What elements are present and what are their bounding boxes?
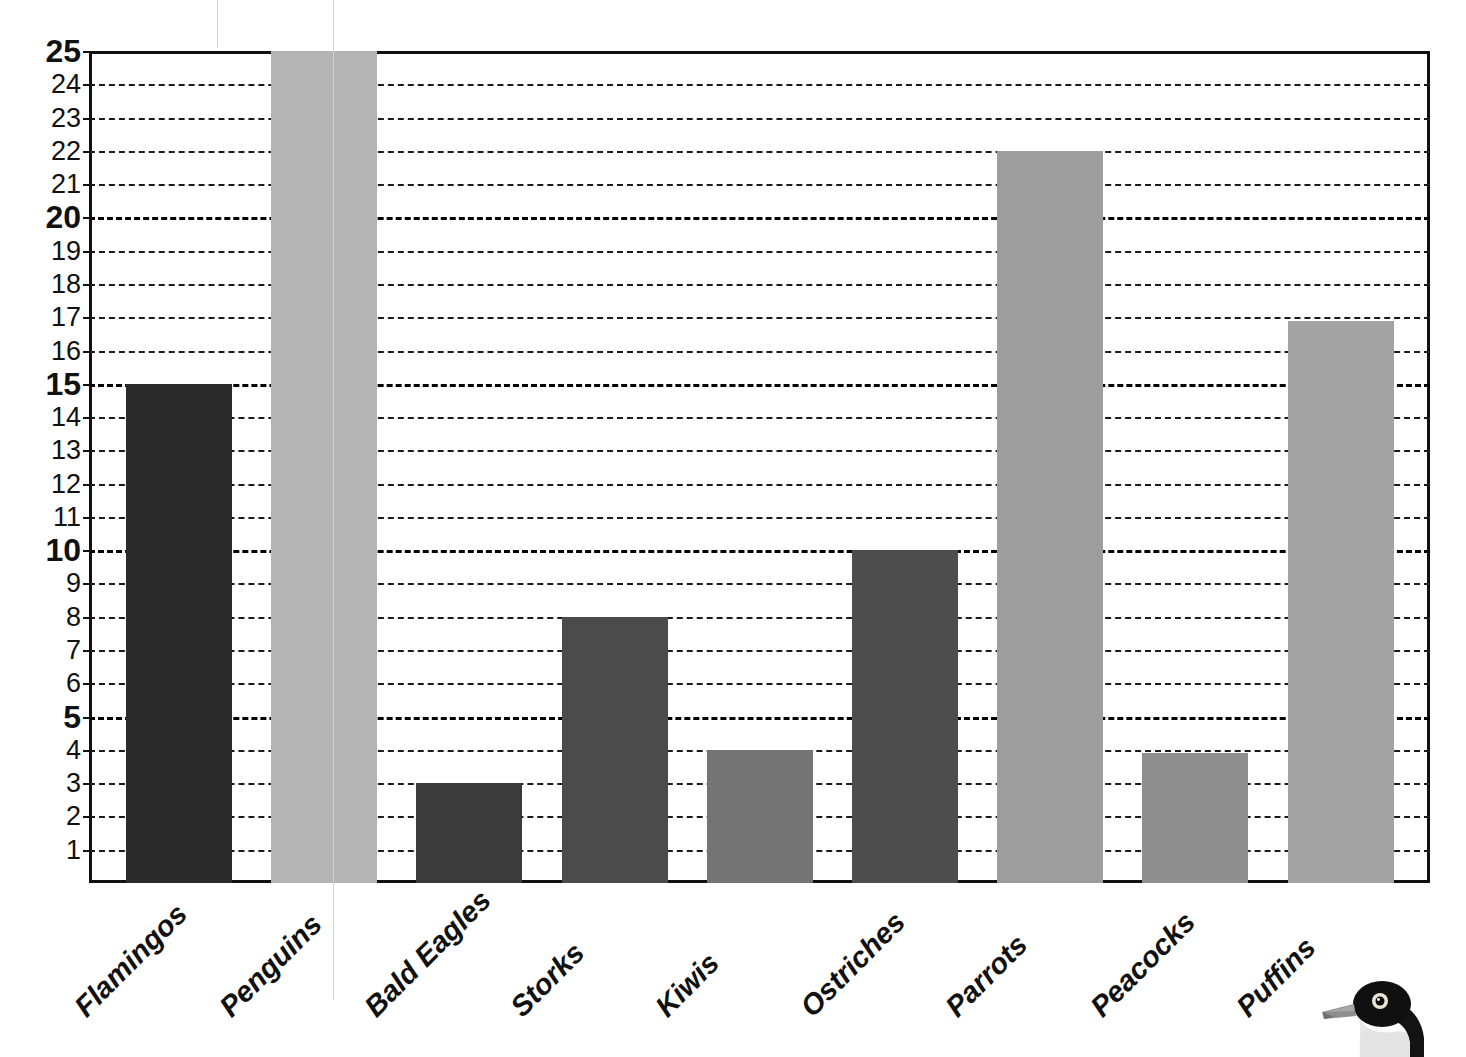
y-axis-tick-label: 24 (51, 71, 81, 98)
y-tick-mark-16 (83, 351, 91, 353)
y-axis-tick-label: 22 (51, 137, 81, 164)
x-axis-label-ostriches: Ostriches (794, 905, 912, 1023)
x-axis-label-puffins: Puffins (1230, 931, 1322, 1023)
x-axis-label-peacocks: Peacocks (1084, 905, 1202, 1023)
y-axis-tick-label: 12 (51, 470, 81, 497)
scan-artifact-line (217, 0, 218, 48)
y-axis-tick-label: 7 (66, 637, 81, 664)
y-axis-tick-label: 16 (51, 337, 81, 364)
x-axis-label-bald-eagles: Bald Eagles (358, 884, 498, 1024)
y-axis-tick-label: 6 (66, 670, 81, 697)
y-axis-tick-label: 5 (63, 701, 81, 733)
y-tick-mark-13 (83, 450, 91, 452)
y-axis-tick-label: 2 (66, 803, 81, 830)
bar-penguins[interactable] (271, 51, 377, 883)
y-tick-mark-5 (83, 717, 91, 719)
y-tick-mark-1 (83, 850, 91, 852)
y-tick-mark-7 (83, 650, 91, 652)
y-tick-mark-11 (83, 517, 91, 519)
bar-kiwis[interactable] (707, 750, 813, 883)
y-axis-tick-label: 19 (51, 237, 81, 264)
x-axis-label-flamingos: Flamingos (68, 897, 194, 1023)
y-tick-mark-6 (83, 683, 91, 685)
bar-parrots[interactable] (997, 151, 1103, 883)
y-axis-tick-label: 1 (66, 836, 81, 863)
x-axis-label-parrots: Parrots (939, 928, 1034, 1023)
y-axis-tick-label: 8 (66, 603, 81, 630)
y-axis-tick-label: 25 (45, 35, 81, 67)
y-axis-tick-label: 20 (45, 201, 81, 233)
x-axis-label-storks: Storks (504, 936, 591, 1023)
bar-peacocks[interactable] (1142, 753, 1248, 883)
bar-flamingos[interactable] (126, 384, 232, 883)
y-axis-tick-label: 11 (53, 503, 81, 530)
scan-artifact-line (333, 0, 334, 1000)
y-tick-mark-8 (83, 617, 91, 619)
bar-storks[interactable] (562, 617, 668, 883)
y-axis-tick-label: 9 (66, 570, 81, 597)
y-tick-mark-23 (83, 118, 91, 120)
x-axis-label-kiwis: Kiwis (649, 946, 726, 1023)
y-tick-mark-22 (83, 151, 91, 153)
y-tick-mark-18 (83, 284, 91, 286)
y-tick-mark-17 (83, 317, 91, 319)
y-tick-mark-24 (83, 84, 91, 86)
y-axis-tick-label: 18 (51, 270, 81, 297)
y-axis-tick-label: 17 (51, 304, 81, 331)
y-axis-tick-label: 23 (51, 104, 81, 131)
y-axis-tick-label: 3 (66, 770, 81, 797)
y-tick-mark-2 (83, 816, 91, 818)
y-axis-tick-label: 15 (45, 368, 81, 400)
y-axis-tick-label: 21 (51, 171, 81, 198)
y-axis-tick-label: 4 (66, 736, 81, 763)
chart-page: 2524232221201918171615141312111098765432… (0, 0, 1466, 1057)
y-tick-mark-10 (83, 550, 91, 552)
y-tick-mark-12 (83, 484, 91, 486)
y-axis-tick-label: 13 (51, 437, 81, 464)
bird-illustration-icon (1318, 978, 1450, 1057)
bar-bald-eagles[interactable] (416, 783, 522, 883)
y-tick-mark-4 (83, 750, 91, 752)
y-tick-mark-15 (83, 384, 91, 386)
y-axis-tick-label: 14 (51, 404, 81, 431)
bar-puffins[interactable] (1288, 321, 1394, 883)
y-tick-mark-3 (83, 783, 91, 785)
y-tick-mark-19 (83, 251, 91, 253)
y-tick-mark-21 (83, 184, 91, 186)
y-tick-mark-14 (83, 417, 91, 419)
y-axis-tick-label: 10 (45, 534, 81, 566)
y-tick-mark-20 (83, 217, 91, 219)
y-tick-mark-9 (83, 583, 91, 585)
y-tick-mark-25 (83, 51, 91, 53)
bar-ostriches[interactable] (852, 550, 958, 883)
x-axis-label-penguins: Penguins (213, 908, 329, 1024)
